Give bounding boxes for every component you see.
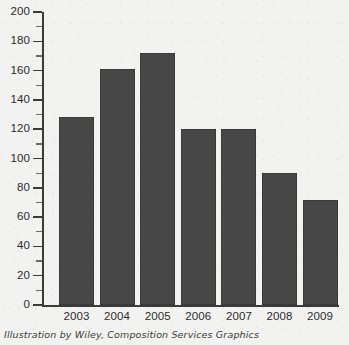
- bar-2009: [303, 200, 338, 305]
- x-tick-label-2007: 2007: [216, 310, 262, 322]
- x-tick-label-2006: 2006: [175, 310, 221, 322]
- bar-2006: [181, 129, 216, 305]
- bar-series: [0, 12, 349, 305]
- x-axis-line: [42, 305, 339, 307]
- bar-2005: [140, 53, 175, 305]
- x-tick-label-2004: 2004: [94, 310, 140, 322]
- x-tick-label-2009: 2009: [297, 310, 343, 322]
- bar-chart: 020406080100120140160180200 200320042005…: [0, 0, 349, 322]
- bar-2003: [59, 117, 94, 305]
- bar-2007: [221, 129, 256, 305]
- x-tick-label-2005: 2005: [135, 310, 181, 322]
- x-tick-label-2003: 2003: [54, 310, 100, 322]
- bar-2008: [262, 173, 297, 305]
- chart-figure: 020406080100120140160180200 200320042005…: [0, 0, 349, 345]
- bar-2004: [100, 69, 135, 305]
- x-tick-label-2008: 2008: [257, 310, 303, 322]
- figure-caption: Illustration by Wiley, Composition Servi…: [4, 329, 259, 340]
